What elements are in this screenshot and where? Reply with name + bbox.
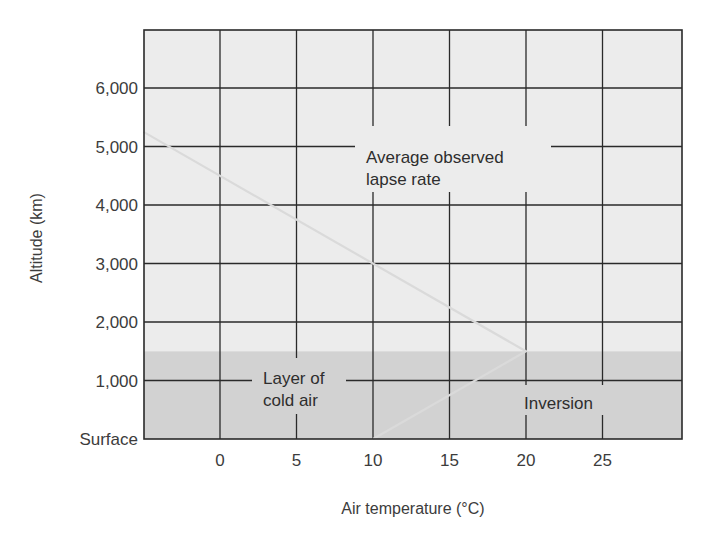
y-axis-tick-labels: Surface1,0002,0003,0004,0005,0006,000 — [79, 79, 138, 449]
x-tick-label: 10 — [364, 451, 383, 470]
x-tick-label: 20 — [517, 451, 536, 470]
y-tick-label: 5,000 — [95, 138, 138, 157]
y-tick-label: 6,000 — [95, 79, 138, 98]
y-tick-label: 2,000 — [95, 313, 138, 332]
y-tick-label: 4,000 — [95, 196, 138, 215]
y-axis-title: Altitude (km) — [28, 193, 45, 283]
x-axis-tick-labels: 0510152025 — [215, 451, 612, 470]
y-tick-label: 3,000 — [95, 255, 138, 274]
y-tick-label: Surface — [79, 430, 138, 449]
x-tick-label: 25 — [593, 451, 612, 470]
lapse-rate-chart: Surface1,0002,0003,0004,0005,0006,000 05… — [0, 0, 703, 536]
x-tick-label: 0 — [215, 451, 224, 470]
x-tick-label: 5 — [292, 451, 301, 470]
x-tick-label: 15 — [440, 451, 459, 470]
x-axis-title: Air temperature (°C) — [341, 500, 484, 517]
inversion-annotation: Inversion — [524, 394, 593, 413]
y-tick-label: 1,000 — [95, 372, 138, 391]
